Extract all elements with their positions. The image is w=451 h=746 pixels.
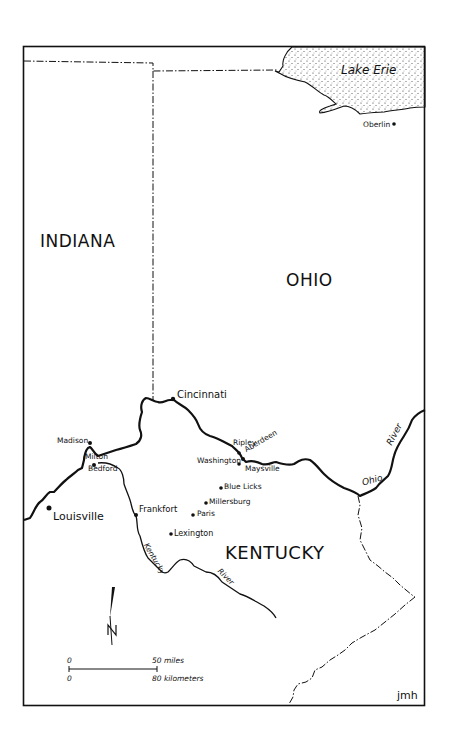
city-milton: Milton <box>85 453 108 461</box>
state-label-kentucky: KENTUCKY <box>225 544 325 562</box>
city-oberlin: Oberlin <box>363 121 390 129</box>
city-millersburg: Millersburg <box>209 498 251 506</box>
city-cincinnati: Cincinnati <box>177 390 227 400</box>
city-louisville: Louisville <box>53 511 104 522</box>
scale-bar <box>69 666 157 672</box>
artist-signature: jmh <box>397 690 418 701</box>
map-frame <box>24 47 425 706</box>
scale-km-end: 80 kilometers <box>152 675 204 683</box>
city-washington: Washington <box>197 457 241 465</box>
scale-km-start: 0 <box>67 675 72 683</box>
city-paris: Paris <box>197 510 215 518</box>
city-dots <box>47 122 396 536</box>
map-canvas <box>0 0 451 746</box>
north-arrow-label: N <box>106 622 115 634</box>
north-arrow <box>108 587 116 645</box>
city-maysville: Maysville <box>245 465 280 473</box>
city-lexington: Lexington <box>174 530 213 538</box>
city-frankfort: Frankfort <box>139 505 177 514</box>
city-madison: Madison <box>57 437 88 445</box>
scale-miles-end: 50 miles <box>152 657 184 665</box>
scale-miles-start: 0 <box>67 657 72 665</box>
state-label-ohio: OHIO <box>286 272 333 289</box>
lake-erie-label: Lake Erie <box>341 64 396 76</box>
city-blue-licks: Blue Licks <box>224 483 262 491</box>
state-boundaries <box>24 61 415 704</box>
lake-erie-shape <box>275 47 425 114</box>
state-label-indiana: INDIANA <box>40 233 115 250</box>
city-bedford: Bedford <box>88 465 117 473</box>
